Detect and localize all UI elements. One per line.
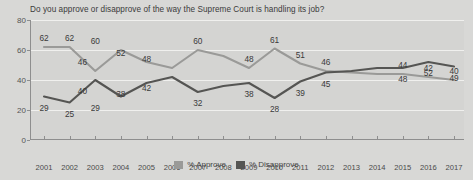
plot-area: 020406080 626246605248604861514644424029…: [30, 20, 464, 140]
data-label: 45: [321, 79, 330, 89]
data-label: 49: [449, 73, 458, 83]
data-label: 48: [244, 54, 253, 64]
chart-title: Do you approve or disapprove of the way …: [30, 5, 324, 14]
legend-label: % Approve: [187, 160, 226, 169]
data-label: 28: [270, 104, 279, 114]
data-label: 46: [321, 57, 330, 67]
legend-item[interactable]: % Approve: [174, 160, 226, 169]
data-label: 44: [398, 60, 407, 70]
data-label: 60: [91, 36, 100, 46]
data-label: 61: [270, 35, 279, 45]
data-label: 62: [39, 33, 48, 43]
chart-legend: % Approve% Disapprove: [0, 160, 473, 169]
y-tick-label: 60: [17, 46, 26, 55]
data-label: 32: [193, 98, 202, 108]
data-label: 42: [142, 83, 151, 93]
y-tick-mark: [27, 140, 30, 141]
data-label: 52: [424, 68, 433, 78]
y-tick-label: 0: [22, 136, 26, 145]
data-label: 40: [78, 86, 87, 96]
legend-label: % Disapprove: [249, 160, 299, 169]
legend-swatch: [236, 161, 245, 169]
chart-container: Do you approve or disapprove of the way …: [0, 0, 473, 180]
y-tick-label: 40: [17, 76, 26, 85]
data-label: 29: [39, 103, 48, 113]
legend-item[interactable]: % Disapprove: [236, 160, 299, 169]
data-label: 60: [193, 36, 202, 46]
data-label: 38: [116, 89, 125, 99]
data-label: 38: [244, 89, 253, 99]
y-tick-label: 20: [17, 106, 26, 115]
data-label: 39: [296, 88, 305, 98]
data-label: 52: [116, 48, 125, 58]
data-label: 48: [142, 54, 151, 64]
data-label: 29: [91, 103, 100, 113]
data-label: 62: [65, 33, 74, 43]
data-label: 51: [296, 50, 305, 60]
data-label: 25: [65, 109, 74, 119]
legend-swatch: [174, 161, 183, 169]
y-tick-label: 80: [17, 16, 26, 25]
data-label: 48: [398, 74, 407, 84]
data-label: 46: [78, 57, 87, 67]
